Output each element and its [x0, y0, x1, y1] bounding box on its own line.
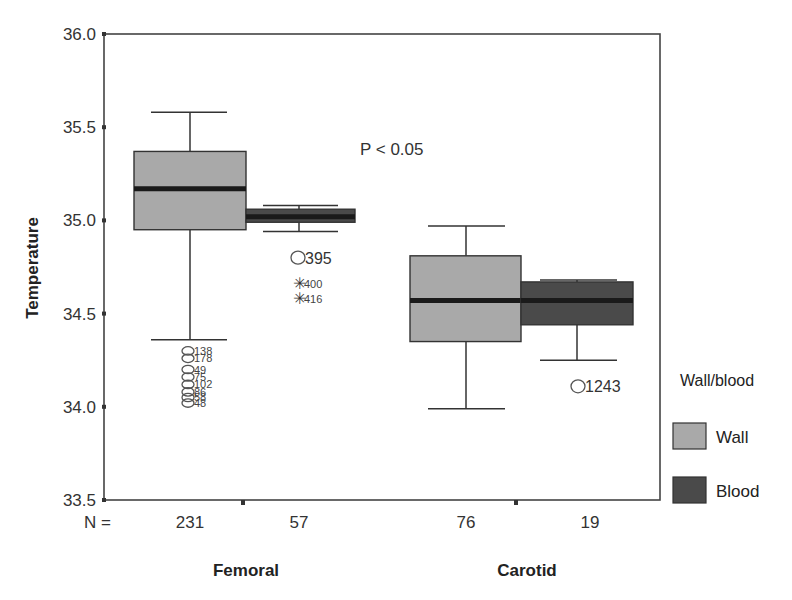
y-tick-mark: [102, 32, 106, 36]
outlier-points: 1381784975102865848395✳400✳4161243: [182, 250, 621, 409]
plot-frame: [104, 34, 660, 500]
y-tick-mark: [102, 218, 106, 222]
x-tick-mark: [514, 500, 518, 505]
x-tick-mark: [241, 500, 245, 505]
y-tick-label: 34.0: [63, 398, 96, 417]
y-tick-mark: [102, 405, 106, 409]
y-tick-label: 35.0: [63, 211, 96, 230]
n-value-carotid-blood: 19: [581, 513, 600, 532]
boxplot-chart: 33.534.034.535.035.536.0 138178497510286…: [0, 0, 792, 600]
legend: Wall/blood Wall Blood: [673, 372, 759, 503]
plot-area: [104, 34, 660, 505]
y-axis: 33.534.034.535.035.536.0: [63, 25, 106, 510]
legend-label-blood: Blood: [716, 482, 759, 501]
y-tick-label: 35.5: [63, 118, 96, 137]
outlier-label: 395: [305, 250, 332, 267]
box-blood-femoral: [246, 205, 355, 231]
outlier-label: 1243: [585, 378, 621, 395]
y-tick-label: 34.5: [63, 305, 96, 324]
legend-label-wall: Wall: [716, 428, 748, 447]
n-prefix-label: N =: [84, 513, 111, 532]
group-label-femoral: Femoral: [213, 561, 279, 580]
legend-title: Wall/blood: [680, 372, 754, 389]
outlier-circle-icon: [182, 399, 194, 407]
outlier-circle-icon: [291, 251, 305, 264]
y-tick-label: 33.5: [63, 491, 96, 510]
box-blood-carotid: [521, 280, 633, 360]
y-tick-mark: [102, 498, 106, 502]
y-tick-mark: [102, 312, 106, 316]
legend-swatch-blood: [673, 477, 706, 503]
box-wall-carotid: [410, 226, 521, 409]
significance-annotation: P < 0.05: [360, 140, 424, 159]
outlier-label: 48: [194, 397, 206, 409]
outlier-label: 400: [304, 278, 322, 290]
box-wall-femoral: [134, 112, 246, 339]
group-label-carotid: Carotid: [497, 561, 557, 580]
n-value-femoral-wall: 231: [176, 513, 204, 532]
n-value-carotid-wall: 76: [457, 513, 476, 532]
y-tick-mark: [102, 125, 106, 129]
y-tick-label: 36.0: [63, 25, 96, 44]
y-axis-title: Temperature: [23, 217, 42, 319]
iqr-box: [521, 282, 633, 325]
n-value-femoral-blood: 57: [290, 513, 309, 532]
legend-swatch-wall: [673, 423, 706, 449]
outlier-label: 416: [304, 293, 322, 305]
outlier-circle-icon: [571, 380, 585, 393]
